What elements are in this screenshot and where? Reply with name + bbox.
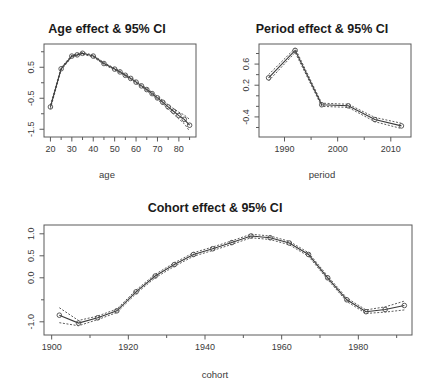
age-x-axis-label: age	[99, 169, 115, 180]
cohort-plot-area: 19001920194019601980-1.00.00.51.0	[26, 225, 412, 352]
age-chart-title: Age effect & 95% CI	[48, 22, 165, 36]
age-effect-chart: Age effect & 95% CI 20304050607080-1.5-0…	[0, 0, 215, 190]
cohort-effect-panel: Cohort effect & 95% CI 19001920194019601…	[0, 190, 430, 391]
period-x-axis-label: period	[309, 169, 335, 180]
period-y-tick-label: 0.2	[241, 79, 251, 92]
cohort-plot-frame	[44, 225, 412, 335]
age-effect-panel: Age effect & 95% CI 20304050607080-1.5-0…	[0, 0, 215, 190]
cohort-x-tick-label: 1960	[272, 342, 292, 352]
age-x-tick-label: 80	[174, 144, 184, 154]
age-estimate-line	[50, 53, 189, 125]
age-x-tick-label: 40	[88, 144, 98, 154]
age-x-tick-label: 50	[110, 144, 120, 154]
period-x-tick-label: 1990	[274, 144, 294, 154]
period-x-tick-label: 2000	[328, 144, 348, 154]
cohort-estimate-line	[59, 236, 404, 323]
period-chart-title: Period effect & 95% CI	[256, 22, 389, 36]
period-effect-panel: Period effect & 95% CI 199020002010-0.40…	[215, 0, 430, 190]
cohort-x-tick-label: 1980	[348, 342, 368, 352]
period-plot-area: 199020002010-0.40.20.6	[241, 44, 411, 154]
period-y-tick-label: -0.4	[241, 109, 251, 125]
age-ci-lower-line	[50, 54, 189, 131]
cohort-y-tick-label: 1.0	[26, 228, 36, 241]
cohort-chart-title: Cohort effect & 95% CI	[148, 201, 283, 215]
cohort-x-tick-label: 1920	[118, 342, 138, 352]
period-estimate-line	[269, 50, 402, 126]
age-x-tick-label: 20	[45, 144, 55, 154]
age-plot-area: 20304050607080-1.5-0.50.5	[26, 44, 196, 154]
cohort-x-axis-label: cohort	[202, 369, 229, 380]
cohort-y-tick-label: 0.5	[26, 250, 36, 263]
age-plot-frame	[44, 44, 196, 137]
period-effect-chart: Period effect & 95% CI 199020002010-0.40…	[215, 0, 430, 190]
period-x-tick-label: 2010	[381, 144, 401, 154]
cohort-y-tick-label: -1.0	[26, 314, 36, 330]
period-y-tick-label: 0.6	[241, 58, 251, 71]
age-y-tick-label: 0.5	[26, 61, 36, 74]
age-x-tick-label: 30	[67, 144, 77, 154]
cohort-effect-chart: Cohort effect & 95% CI 19001920194019601…	[0, 190, 430, 391]
cohort-ci-upper-line	[59, 234, 404, 320]
period-ci-lower-line	[269, 52, 402, 128]
age-x-tick-label: 60	[131, 144, 141, 154]
age-y-tick-label: -1.5	[26, 121, 36, 137]
cohort-x-tick-label: 1940	[195, 342, 215, 352]
cohort-y-tick-label: 0.0	[26, 272, 36, 285]
age-y-tick-label: -0.5	[26, 90, 36, 106]
age-x-tick-label: 70	[152, 144, 162, 154]
cohort-x-tick-label: 1900	[42, 342, 62, 352]
